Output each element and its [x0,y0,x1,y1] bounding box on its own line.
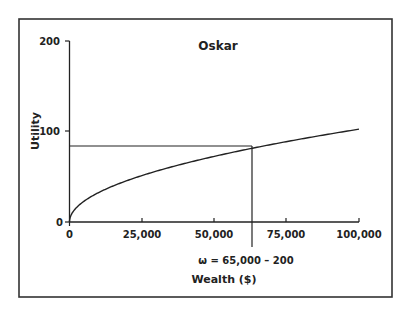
x-axis-label: Wealth ($) [191,273,256,286]
utility-curve [70,129,360,222]
y-tick-label-200: 200 [39,36,60,47]
y-axis-label: Utility [29,112,42,150]
y-tick-label-0: 0 [56,217,63,228]
x-tick-label-0: 0 [66,229,73,240]
x-tick-label-75000: 75,000 [267,229,306,240]
chart-title: Oskar [198,39,237,53]
x-tick-label-50000: 50,000 [195,229,234,240]
wealth-annotation: ω = 65,000 – 200 [198,255,294,266]
x-tick-label-25000: 25,000 [123,229,162,240]
x-tick-label-100000: 100,000 [336,229,382,240]
chart-svg: Oskar 200 100 0 Utility 0 25,000 50,000 … [0,0,408,311]
y-tick-label-100: 100 [39,126,60,137]
